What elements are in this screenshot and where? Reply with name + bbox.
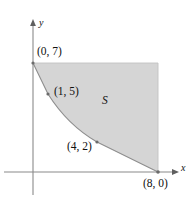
region-diagram-svg [0, 0, 193, 204]
point-label-4-2: (4, 2) [67, 141, 92, 153]
point-label-0-7: (0, 7) [37, 46, 62, 58]
point-marker-0-7 [31, 61, 34, 64]
point-marker-8-0 [156, 170, 160, 174]
region-s-fill [33, 63, 158, 172]
point-marker-4-2 [95, 140, 98, 143]
x-axis-label: x [181, 163, 185, 173]
point-label-8-0: (8, 0) [143, 178, 168, 190]
figure-container: (0, 7) (1, 5) (4, 2) (8, 0) y x S [0, 0, 193, 204]
region-label-s: S [102, 95, 108, 107]
point-marker-1-5 [46, 92, 49, 95]
arrow-right-icon [172, 169, 179, 175]
point-label-1-5: (1, 5) [54, 86, 79, 98]
arrow-up-icon [30, 19, 36, 26]
y-axis-label: y [39, 18, 43, 28]
